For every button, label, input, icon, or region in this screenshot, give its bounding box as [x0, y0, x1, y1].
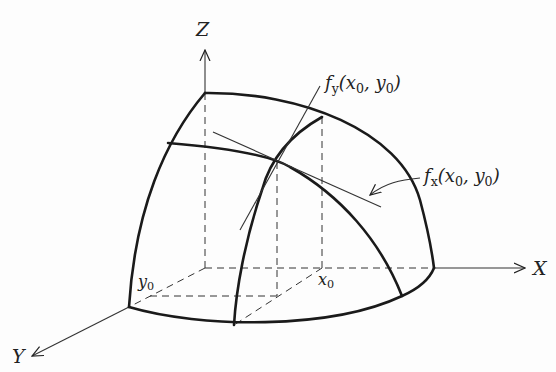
surface-curves	[129, 93, 434, 325]
y-axis	[32, 307, 129, 356]
curve-x0-trace	[234, 117, 322, 325]
dashed-guides	[129, 93, 434, 325]
curve-xy-plane	[129, 268, 434, 322]
diagram-canvas: Z X Y fy(x0, y0) fx(x0, y0) x0 y0	[0, 0, 556, 372]
x0-label: x0	[318, 270, 334, 291]
fy-label: fy(x0, y0)	[325, 72, 401, 96]
curve-y0-trace	[168, 143, 402, 296]
x-axis-label: X	[533, 257, 547, 279]
axes	[32, 50, 525, 356]
tangent-fy	[240, 86, 320, 230]
tangent-lines	[213, 86, 381, 230]
fx-label: fx(x0, y0)	[424, 165, 500, 189]
y-axis-label: Y	[12, 345, 25, 367]
tangent-fx	[213, 132, 381, 207]
z-axis-label: Z	[196, 18, 209, 40]
y0-label: y0	[138, 272, 154, 293]
